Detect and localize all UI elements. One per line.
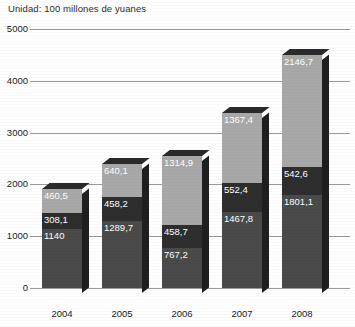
stacked-bar[interactable]: 1801,1542,62146,7	[282, 55, 322, 288]
bar-segment-segmento-medio[interactable]: 552,4	[222, 183, 262, 212]
bar-segment-segmento-inferior[interactable]: 1467,8	[222, 212, 262, 288]
bar-value-label: 552,4	[224, 184, 248, 195]
plot-area: 0100020003000400050001140308,1460,520041…	[0, 0, 355, 327]
bar-segment-segmento-medio[interactable]: 308,1	[42, 213, 82, 229]
bar-value-label: 458,2	[104, 198, 128, 209]
bar-value-label: 767,2	[164, 249, 188, 260]
bar-segment-segmento-superior[interactable]: 640,1	[102, 164, 142, 197]
bar-value-label: 542,6	[284, 168, 308, 179]
y-axis-tick-label: 2000	[2, 178, 28, 189]
stacked-bar[interactable]: 1467,8552,41367,4	[222, 113, 262, 288]
bar-value-label: 308,1	[44, 214, 68, 225]
bar-segment-segmento-superior[interactable]: 460,5	[42, 189, 82, 213]
bar-value-label: 1801,1	[284, 196, 313, 207]
bar-side-face	[82, 189, 89, 293]
x-axis-label-2006: 2006	[155, 308, 209, 319]
bar-value-label: 458,7	[164, 226, 188, 237]
bar-value-label: 640,1	[104, 165, 128, 176]
bar-side-face	[262, 112, 269, 293]
bar-segment-segmento-superior[interactable]: 1367,4	[222, 113, 262, 184]
bar-segment-segmento-inferior[interactable]: 767,2	[162, 248, 202, 288]
x-axis-label-2004: 2004	[35, 308, 89, 319]
bar-side-face	[322, 55, 329, 293]
bar-top-face	[222, 107, 270, 113]
y-axis-tick-label: 0	[2, 282, 28, 293]
y-axis-tick-label: 3000	[2, 127, 28, 138]
gridline-5000	[30, 29, 350, 30]
bar-value-label: 2146,7	[284, 56, 313, 67]
bar-segment-segmento-inferior[interactable]: 1289,7	[102, 221, 142, 288]
bar-value-label: 1314,9	[164, 157, 193, 168]
x-axis-label-2008: 2008	[275, 308, 329, 319]
stacked-bar[interactable]: 1140308,1460,5	[42, 189, 82, 288]
bar-top-face	[162, 150, 210, 156]
bar-side-face	[202, 156, 209, 293]
y-axis-tick-label: 4000	[2, 75, 28, 86]
bar-segment-segmento-medio[interactable]: 542,6	[282, 167, 322, 195]
bar-top-face	[42, 183, 90, 189]
bar-segment-segmento-medio[interactable]: 458,2	[102, 197, 142, 221]
bar-value-label: 1467,8	[224, 213, 253, 224]
bar-segment-segmento-medio[interactable]: 458,7	[162, 225, 202, 249]
bar-value-label: 1367,4	[224, 114, 253, 125]
bar-segment-segmento-superior[interactable]: 2146,7	[282, 55, 322, 166]
bar-chart: Unidad: 100 millones de yuanes 010002000…	[0, 0, 355, 327]
x-axis-label-2005: 2005	[95, 308, 149, 319]
y-axis-tick-label: 1000	[2, 230, 28, 241]
bar-top-face	[282, 49, 330, 55]
x-axis-label-2007: 2007	[215, 308, 269, 319]
bar-top-face	[102, 158, 150, 164]
stacked-bar[interactable]: 1289,7458,2640,1	[102, 164, 142, 288]
bar-segment-segmento-inferior[interactable]: 1801,1	[282, 195, 322, 288]
y-axis-tick-label: 5000	[2, 23, 28, 34]
bar-segment-segmento-inferior[interactable]: 1140	[42, 229, 82, 288]
bar-side-face	[142, 164, 149, 293]
gridline-0	[30, 288, 350, 289]
stacked-bar[interactable]: 767,2458,71314,9	[162, 156, 202, 288]
bar-value-label: 460,5	[44, 190, 68, 201]
bar-segment-segmento-superior[interactable]: 1314,9	[162, 156, 202, 224]
bar-value-label: 1140	[44, 230, 64, 241]
bar-value-label: 1289,7	[104, 222, 133, 233]
